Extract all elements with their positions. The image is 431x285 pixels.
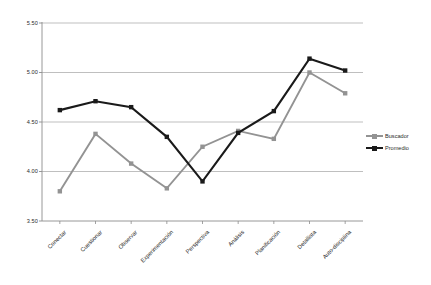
y-axis-tick-label: 3.50 xyxy=(18,218,38,224)
data-point-marker xyxy=(165,186,169,190)
series-layer xyxy=(58,56,348,193)
axes xyxy=(39,22,42,221)
y-axis-tick-label: 5.00 xyxy=(18,69,38,75)
data-point-marker xyxy=(272,137,276,141)
data-point-marker xyxy=(58,108,62,112)
data-point-marker xyxy=(93,132,97,136)
legend-label: Promedio xyxy=(385,145,409,151)
gridlines xyxy=(42,23,363,221)
data-point-marker xyxy=(58,189,62,193)
legend-swatch-icon xyxy=(366,132,383,140)
data-point-marker xyxy=(165,135,169,139)
data-point-marker xyxy=(272,109,276,113)
data-point-marker xyxy=(343,68,347,72)
series-line-promedio xyxy=(60,59,345,182)
legend-swatch-icon xyxy=(366,144,383,152)
data-point-marker xyxy=(129,105,133,109)
legend-item-buscador[interactable]: Buscador xyxy=(366,130,430,142)
data-point-marker xyxy=(93,99,97,103)
data-point-marker xyxy=(343,91,347,95)
data-point-marker xyxy=(307,70,311,74)
y-axis-tick-label: 4.00 xyxy=(18,168,38,174)
data-point-marker xyxy=(200,145,204,149)
y-axis-tick-label: 4.50 xyxy=(18,119,38,125)
line-chart: 3.504.004.505.005.50 ConectarCuestionarO… xyxy=(0,0,431,285)
y-axis-tick-label: 5.50 xyxy=(18,20,38,26)
legend-item-promedio[interactable]: Promedio xyxy=(366,142,430,154)
data-point-marker xyxy=(200,179,204,183)
legend-label: Buscador xyxy=(385,133,409,139)
series-line-buscador xyxy=(60,73,345,192)
data-point-marker xyxy=(236,131,240,135)
data-point-marker xyxy=(307,56,311,60)
chart-legend: BuscadorPromedio xyxy=(366,130,430,154)
data-point-marker xyxy=(129,161,133,165)
